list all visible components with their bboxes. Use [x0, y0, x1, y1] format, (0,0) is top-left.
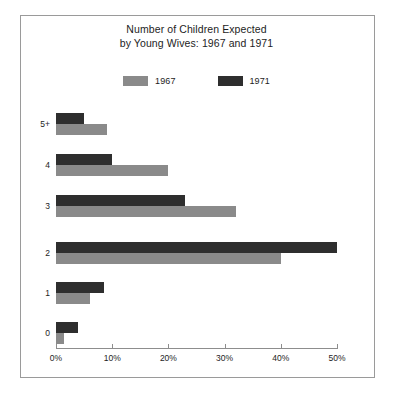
x-axis-tick-label: 20%: [160, 353, 177, 363]
bar-1971-1: [56, 282, 104, 293]
y-axis-tick-label: 5+: [28, 119, 50, 129]
x-axis-tick-label: 40%: [272, 353, 289, 363]
x-axis-tick: [112, 344, 113, 349]
x-axis-tick: [225, 344, 226, 349]
x-axis-tick: [281, 344, 282, 349]
y-axis-tick-label: 4: [28, 160, 50, 170]
x-axis-line: [56, 348, 338, 349]
bar-1971-3: [56, 195, 185, 206]
y-axis-tick-label: 0: [28, 328, 50, 338]
y-axis-tick-label: 1: [28, 288, 50, 298]
bar-1967-3: [56, 206, 236, 217]
x-axis-tick-label: 50%: [328, 353, 345, 363]
y-axis-tick-label: 2: [28, 248, 50, 258]
plot-area: 0%10%20%30%40%50% 012345+: [0, 0, 393, 394]
chart-figure: Number of Children Expected by Young Wiv…: [0, 0, 393, 394]
bar-1971-0: [56, 322, 78, 333]
bar-1967-1: [56, 293, 90, 304]
x-axis-tick-label: 30%: [216, 353, 233, 363]
bar-1967-0: [56, 333, 64, 344]
x-axis-tick: [56, 344, 57, 349]
bar-1971-2: [56, 242, 337, 253]
x-axis-tick: [168, 344, 169, 349]
bar-1967-2: [56, 253, 281, 264]
bar-1971-5+: [56, 113, 84, 124]
x-axis-tick: [337, 344, 338, 349]
x-axis-tick-label: 0%: [50, 353, 62, 363]
bar-1967-4: [56, 165, 168, 176]
y-axis-tick-label: 3: [28, 201, 50, 211]
bar-1967-5+: [56, 124, 107, 135]
bar-1971-4: [56, 154, 112, 165]
x-axis-tick-label: 10%: [104, 353, 121, 363]
